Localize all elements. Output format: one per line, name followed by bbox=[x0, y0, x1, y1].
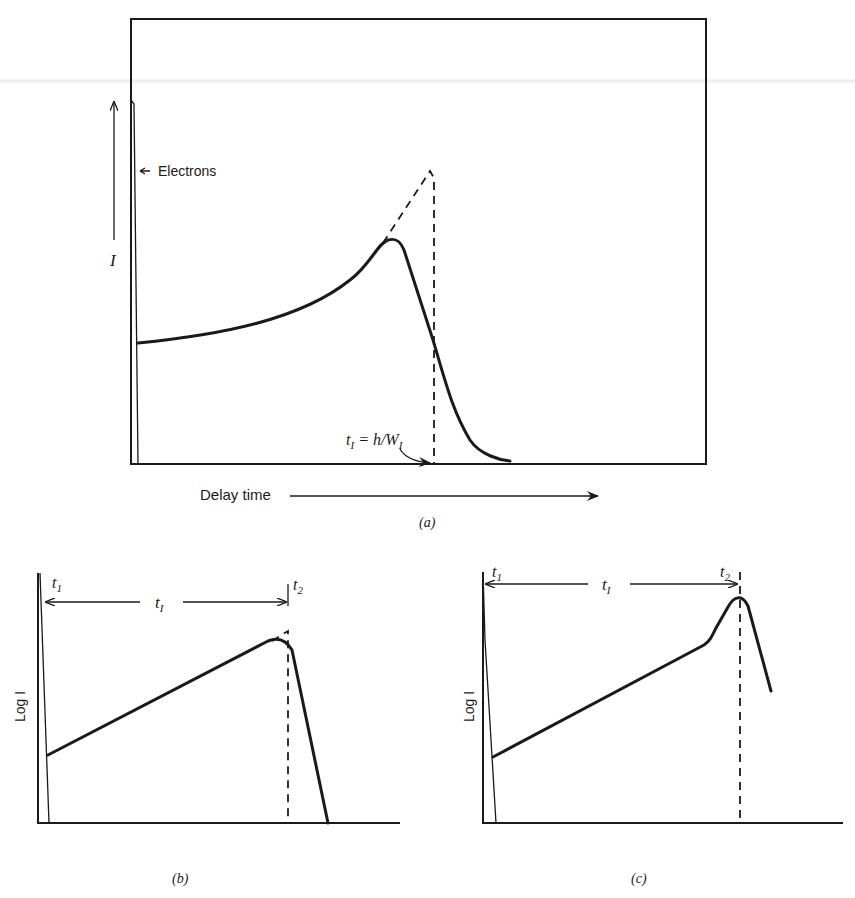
panel-b-extrapolation bbox=[272, 631, 288, 823]
panel-b-caption: (b) bbox=[172, 871, 189, 887]
ion-signal-curve bbox=[138, 239, 510, 461]
tI-pointer-arrow bbox=[400, 449, 430, 463]
panel-a-frame bbox=[131, 19, 706, 464]
panel-b-electron-spike bbox=[40, 573, 49, 823]
panel-b-axes bbox=[38, 573, 400, 823]
panel-b-t1-label: t1 bbox=[52, 574, 62, 594]
panel-c-t2-label: t2 bbox=[720, 563, 730, 583]
panel-c-tI-label: tI bbox=[602, 575, 612, 596]
electrons-label: Electrons bbox=[158, 163, 216, 179]
tI-annotation: tI = h/WI bbox=[346, 431, 404, 451]
panel-b-t2-label: t2 bbox=[293, 576, 303, 596]
panel-c-electron-spike bbox=[483, 572, 496, 823]
panel-c-caption: (c) bbox=[631, 871, 647, 887]
figure-canvas: I Electrons tI = h/WI Delay time (a) Log… bbox=[0, 0, 855, 898]
electrons-pointer-icon bbox=[140, 168, 150, 174]
panel-b-tI-label: tI bbox=[155, 593, 165, 614]
electron-spike bbox=[131, 100, 138, 464]
panel-c-ion-curve bbox=[493, 598, 771, 757]
panel-c-t1-label: t1 bbox=[492, 563, 502, 583]
y-axis-label: I bbox=[109, 251, 117, 270]
panel-a: I Electrons tI = h/WI Delay time (a) bbox=[109, 19, 706, 531]
panel-c-y-label: Log I bbox=[461, 691, 477, 722]
panel-b: Log I t1 t2 tI (b) bbox=[12, 573, 400, 887]
panel-b-y-label: Log I bbox=[12, 691, 28, 722]
panel-c-axes bbox=[483, 572, 843, 823]
panel-c: Log I t1 t2 tI (c) bbox=[461, 563, 843, 887]
x-axis-label: Delay time bbox=[200, 486, 271, 503]
panel-b-ion-curve bbox=[48, 639, 328, 823]
panel-a-caption: (a) bbox=[419, 515, 436, 531]
